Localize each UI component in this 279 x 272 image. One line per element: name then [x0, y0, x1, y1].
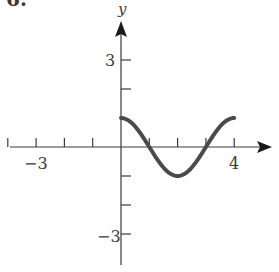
- x-tick-label-4: 4: [229, 154, 239, 173]
- x-axis: [10, 141, 272, 153]
- graph-figure: 6. y −3 4 3 −3: [0, 0, 279, 272]
- y-tick-label-3: 3: [105, 51, 115, 70]
- y-axis-label: y: [117, 0, 127, 18]
- x-tick-label-neg3: −3: [24, 154, 48, 173]
- problem-number: 6.: [6, 0, 27, 11]
- y-tick-label-neg3: −3: [97, 227, 121, 246]
